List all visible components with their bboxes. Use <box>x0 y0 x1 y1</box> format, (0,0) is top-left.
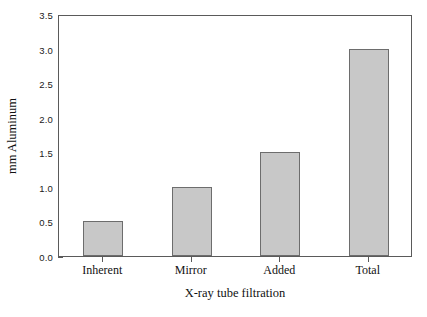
y-axis-tick-label: 0.5 <box>39 217 53 228</box>
y-axis-tick-label: 3.5 <box>39 10 53 21</box>
bar-chart-figure: mm Aluminum 0.00.51.01.52.02.53.03.5 Inh… <box>0 0 427 317</box>
bar-mirror <box>172 187 212 256</box>
bar-added <box>260 152 300 256</box>
y-axis-tick-labels: 0.00.51.01.52.02.53.03.5 <box>0 15 53 257</box>
bar-total <box>349 49 389 256</box>
bar-inherent <box>83 221 123 256</box>
x-axis-tick-label: Total <box>356 263 381 278</box>
x-axis-tick-mark <box>191 257 192 262</box>
y-axis-tick-label: 1.0 <box>39 182 53 193</box>
x-axis-tick-mark <box>279 257 280 262</box>
plot-area <box>58 15 412 257</box>
y-axis-tick-label: 3.0 <box>39 44 53 55</box>
x-axis-tick-label: Inherent <box>82 263 122 278</box>
x-axis-title: X-ray tube filtration <box>58 286 412 301</box>
y-axis-tick-label: 0.0 <box>39 252 53 263</box>
x-axis-tick-mark <box>102 257 103 262</box>
x-axis-tick-mark <box>368 257 369 262</box>
y-axis-tick-label: 2.0 <box>39 113 53 124</box>
y-axis-tick-label: 1.5 <box>39 148 53 159</box>
x-axis-tick-labels: InherentMirrorAddedTotal <box>58 263 412 279</box>
x-axis-tick-label: Mirror <box>175 263 207 278</box>
x-axis-tick-label: Added <box>263 263 295 278</box>
bars-layer <box>59 16 411 256</box>
y-axis-tick-label: 2.5 <box>39 79 53 90</box>
